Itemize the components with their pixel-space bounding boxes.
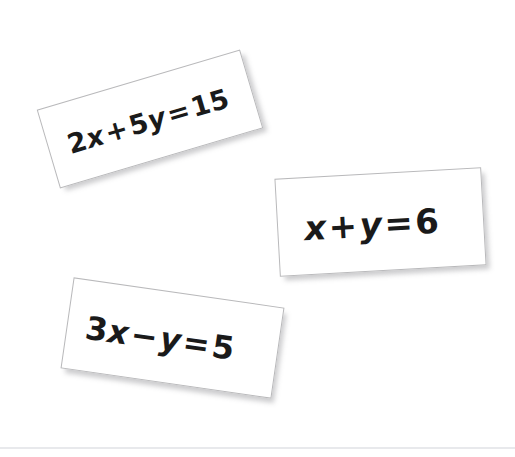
- equals-sign-2: =: [381, 202, 416, 244]
- variable-y-2: y: [358, 204, 383, 245]
- equation-text-2: x+y=6: [277, 200, 440, 247]
- equation-card-3[interactable]: 3x−y=5: [61, 277, 285, 398]
- operator-2: +: [326, 205, 361, 247]
- equation-text-1: 2x+5y=15: [45, 82, 232, 163]
- equation-cards-scene: 2x+5y=15 x+y=6 3x−y=5: [0, 0, 515, 457]
- constant-1: 15: [187, 82, 233, 123]
- bottom-divider: [0, 447, 515, 449]
- equation-card-2[interactable]: x+y=6: [274, 167, 486, 276]
- constant-3: 5: [210, 326, 238, 367]
- constant-2: 6: [414, 201, 440, 242]
- variable-x-2: x: [303, 207, 328, 248]
- equation-text-3: 3x−y=5: [66, 306, 238, 365]
- equation-card-1[interactable]: 2x+5y=15: [37, 50, 264, 189]
